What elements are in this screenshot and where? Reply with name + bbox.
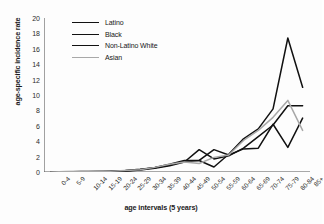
y-tick-label: 8 xyxy=(22,107,40,114)
x-tick-label: 65-69 xyxy=(254,175,271,192)
y-tick-label: 18 xyxy=(22,30,40,37)
x-tick-label: 40-44 xyxy=(180,175,197,192)
legend-item: Asian xyxy=(72,52,192,64)
legend-label: Non-Latino White xyxy=(105,42,157,49)
y-tick-label: 14 xyxy=(22,61,40,68)
x-tick-label: 45-49 xyxy=(195,175,212,192)
chart-legend: LatinoBlackNon-Latino WhiteAsian xyxy=(72,17,192,63)
y-tick-label: 0 xyxy=(22,169,40,176)
x-tick-label: 5-9 xyxy=(75,175,86,186)
legend-label: Latino xyxy=(105,19,123,26)
legend-label: Black xyxy=(105,31,122,38)
legend-swatch xyxy=(72,57,99,58)
x-tick-label: 75-79 xyxy=(284,175,301,192)
y-tick-label: 12 xyxy=(22,76,40,83)
legend-item: Latino xyxy=(72,17,192,29)
legend-swatch xyxy=(72,34,99,35)
y-axis-title: age-specific incidence rate xyxy=(13,0,22,127)
y-tick-label: 20 xyxy=(22,15,40,22)
x-tick-label: 60-64 xyxy=(240,175,257,192)
legend-swatch xyxy=(72,22,99,23)
legend-item: Non-Latino White xyxy=(72,40,192,52)
y-tick-label: 2 xyxy=(22,153,40,160)
legend-swatch xyxy=(72,45,99,46)
x-axis-title: age intervals (5 years) xyxy=(0,203,322,212)
x-tick-label: 20-24 xyxy=(121,175,138,192)
x-tick-label: 30-34 xyxy=(151,175,168,192)
legend-item: Black xyxy=(72,29,192,41)
legend-label: Asian xyxy=(105,54,122,61)
x-tick-label: 50-54 xyxy=(210,175,227,192)
y-tick-label: 6 xyxy=(22,122,40,129)
y-tick-label: 16 xyxy=(22,45,40,52)
x-tick-label: 10-14 xyxy=(92,175,109,192)
x-tick-label: 35-39 xyxy=(166,175,183,192)
x-tick-label: 25-29 xyxy=(136,175,153,192)
x-tick-label: 70-74 xyxy=(269,175,286,192)
x-tick-label: 0-4 xyxy=(60,175,71,186)
x-tick-label: 55-59 xyxy=(225,175,242,192)
x-tick-label: 15-19 xyxy=(107,175,124,192)
y-tick-label: 10 xyxy=(22,92,40,99)
y-tick-label: 4 xyxy=(22,138,40,145)
x-tick-label: 85+ xyxy=(312,175,324,188)
